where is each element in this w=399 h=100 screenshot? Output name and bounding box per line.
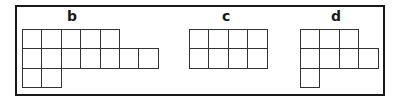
grid-cell-d: [339, 48, 359, 68]
grid-cell-b: [22, 48, 42, 68]
grid-cell-c: [247, 29, 267, 49]
grid-cell-d: [300, 68, 320, 88]
grid-cell-b: [100, 48, 120, 68]
grid-cell-b: [41, 48, 61, 68]
grid-cell-c: [208, 48, 228, 68]
grid-cell-b: [61, 48, 81, 68]
grid-cell-d: [319, 29, 339, 49]
grid-cell-d: [319, 48, 339, 68]
grid-cell-d: [358, 48, 378, 68]
grid-cell-d: [339, 29, 359, 49]
grid-cell-b: [80, 29, 100, 49]
grid-cell-b: [119, 48, 139, 68]
grid-cell-d: [300, 29, 320, 49]
grid-cell-b: [22, 29, 42, 49]
grid-cell-c: [189, 29, 209, 49]
panel-label-b: b: [67, 8, 77, 24]
grid-cell-b: [100, 29, 120, 49]
grid-cell-b: [22, 68, 42, 88]
grid-cell-c: [208, 29, 228, 49]
grid-cell-b: [41, 68, 61, 88]
grid-cell-b: [138, 48, 158, 68]
grid-cell-b: [80, 48, 100, 68]
grid-cell-c: [189, 48, 209, 68]
grid-cell-c: [247, 48, 267, 68]
grid-cell-c: [228, 29, 248, 49]
grid-cell-c: [228, 48, 248, 68]
panel-label-d: d: [331, 8, 341, 24]
grid-cell-d: [300, 48, 320, 68]
grid-cell-b: [61, 29, 81, 49]
panel-label-c: c: [222, 8, 230, 24]
grid-cell-b: [41, 29, 61, 49]
